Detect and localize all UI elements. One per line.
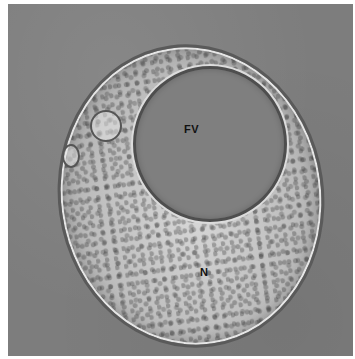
organelle-left [90,110,122,142]
label-fv: FV [184,123,199,135]
organelle-small [62,144,80,168]
food-vacuole [133,66,287,222]
label-n: N [200,266,208,278]
micrograph: FV N [8,4,353,356]
